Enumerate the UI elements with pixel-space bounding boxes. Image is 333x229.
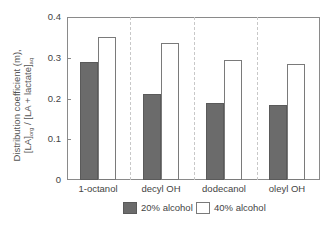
category-separator <box>130 17 131 180</box>
y-axis-label-line1: Distribution coefficient (m), <box>11 45 22 165</box>
bar-40-1-octanol <box>98 37 116 180</box>
legend-label-40: 40% alcohol <box>214 202 266 213</box>
legend-label-20: 20% alcohol <box>141 202 193 213</box>
y-tick <box>67 99 71 100</box>
bar-40-oleyl-oh <box>287 64 305 180</box>
bar-40-dodecanol <box>224 60 242 180</box>
y-tick-label: 0.2 <box>31 93 61 104</box>
x-tick-label: oleyl OH <box>252 183 322 194</box>
y-tick-label: 0.3 <box>31 52 61 63</box>
y-tick <box>67 58 71 59</box>
bar-20-decyl-oh <box>143 94 161 180</box>
y-axis-label-line2: [LA]org / [LA + lactate]aq <box>22 45 38 165</box>
bar-20-oleyl-oh <box>269 105 287 180</box>
y-tick-label: 0.1 <box>31 133 61 144</box>
legend-swatch-40 <box>196 202 210 214</box>
category-separator <box>257 17 258 180</box>
y-tick-label: 0.4 <box>31 11 61 22</box>
y-tick <box>67 139 71 140</box>
x-tick-label: decyl OH <box>126 183 196 194</box>
x-tick-label: 1-octanol <box>63 183 133 194</box>
y-tick-label: 0 <box>31 174 61 185</box>
x-tick-label: dodecanol <box>189 183 259 194</box>
bar-40-decyl-oh <box>161 43 179 180</box>
bar-20-dodecanol <box>206 103 224 180</box>
legend-swatch-20 <box>123 202 137 214</box>
y-axis-label: Distribution coefficient (m), [LA]org / … <box>11 45 38 165</box>
bar-20-1-octanol <box>80 62 98 180</box>
category-separator <box>194 17 195 180</box>
